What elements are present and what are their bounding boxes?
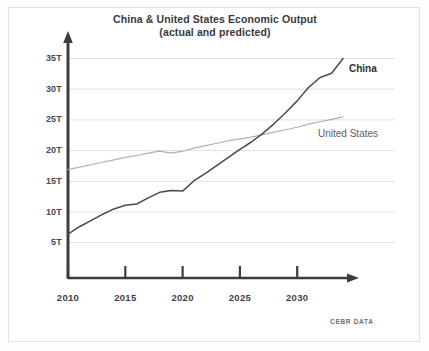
series-label-united-states: United States (318, 128, 378, 139)
y-axis-arrow-icon (63, 31, 73, 43)
x-tick-label: 2030 (277, 292, 317, 303)
x-tick-label: 2020 (163, 292, 203, 303)
x-tick-label: 2025 (220, 292, 260, 303)
y-tick-label: 20T (28, 145, 62, 155)
x-tick-label: 2010 (48, 292, 88, 303)
chart-figure: China & United States Economic Output (a… (0, 0, 429, 351)
y-tick-label: 30T (28, 84, 62, 94)
series-label-china: China (349, 63, 377, 74)
y-tick-label: 10T (28, 207, 62, 217)
series-line-united-states (68, 117, 343, 170)
y-tick-label: 15T (28, 176, 62, 186)
source-attribution: CEBR DATA (330, 318, 374, 325)
x-axis-arrow-icon (347, 273, 359, 282)
y-tick-label: 5T (28, 237, 62, 247)
x-tick-label: 2015 (105, 292, 145, 303)
y-tick-label: 25T (28, 114, 62, 124)
y-tick-label: 35T (28, 53, 62, 63)
gridlines-group (68, 59, 395, 243)
